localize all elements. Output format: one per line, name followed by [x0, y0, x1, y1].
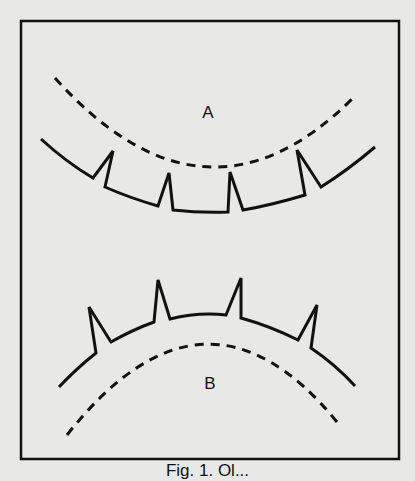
panel-a-label: A: [202, 103, 214, 122]
panel-b-solid-outline: [59, 278, 355, 387]
panel-b: B: [59, 278, 355, 435]
panel-a-dashed-curve: [55, 78, 352, 167]
panel-b-dashed-curve: [67, 344, 337, 435]
figure-caption: Fig. 1. Ol...: [0, 461, 415, 481]
panel-a-solid-outline: [41, 139, 375, 212]
figure-frame: [21, 21, 399, 459]
panel-b-label: B: [204, 374, 215, 393]
panel-a: A: [41, 78, 375, 212]
